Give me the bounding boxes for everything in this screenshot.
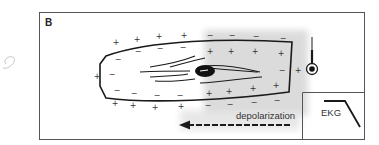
svg-text:−: − bbox=[280, 34, 287, 43]
svg-text:−: − bbox=[227, 100, 234, 109]
svg-text:+: + bbox=[207, 47, 214, 56]
svg-text:−: − bbox=[180, 43, 187, 52]
svg-text:−: − bbox=[207, 31, 214, 40]
svg-text:+: + bbox=[130, 101, 137, 110]
svg-text:−: − bbox=[114, 86, 121, 95]
right-outer-charge: + bbox=[295, 66, 302, 75]
svg-text:+: + bbox=[250, 84, 257, 93]
svg-text:−: − bbox=[157, 44, 164, 53]
svg-text:−: − bbox=[115, 55, 122, 64]
svg-text:−: − bbox=[109, 70, 116, 79]
recording-electrode-icon bbox=[307, 37, 318, 75]
svg-text:−: − bbox=[177, 91, 184, 100]
svg-text:+: + bbox=[273, 81, 280, 90]
svg-text:−: − bbox=[154, 91, 161, 100]
svg-text:+: + bbox=[113, 38, 120, 47]
svg-text:−: − bbox=[135, 47, 142, 56]
ekg-inset: EKG bbox=[303, 93, 365, 140]
panel-label: B bbox=[45, 17, 52, 28]
svg-text:+: + bbox=[112, 99, 119, 108]
svg-text:−: − bbox=[274, 96, 281, 105]
svg-text:+: + bbox=[152, 103, 159, 112]
pencil-scribble bbox=[3, 57, 15, 69]
svg-text:−: − bbox=[229, 31, 236, 40]
depolarization-label: depolarization bbox=[236, 110, 295, 121]
svg-text:+: + bbox=[178, 102, 185, 111]
svg-text:+: + bbox=[252, 47, 259, 56]
svg-text:+: + bbox=[226, 87, 233, 96]
svg-text:+: + bbox=[206, 89, 213, 98]
diagram-panel-b: B + + + + + bbox=[0, 0, 379, 145]
svg-text:+: + bbox=[181, 31, 188, 40]
ekg-label: EKG bbox=[321, 107, 341, 118]
svg-text:−: − bbox=[205, 101, 212, 110]
svg-text:−: − bbox=[131, 89, 138, 98]
svg-text:−: − bbox=[251, 98, 258, 107]
right-inner-charge: − bbox=[279, 66, 286, 75]
svg-text:+: + bbox=[228, 47, 235, 56]
nucleus bbox=[195, 65, 215, 77]
svg-text:+: + bbox=[134, 35, 141, 44]
svg-text:+: + bbox=[278, 49, 285, 58]
svg-text:−: − bbox=[253, 32, 260, 41]
svg-text:+: + bbox=[156, 32, 163, 41]
svg-text:+: + bbox=[94, 72, 101, 81]
